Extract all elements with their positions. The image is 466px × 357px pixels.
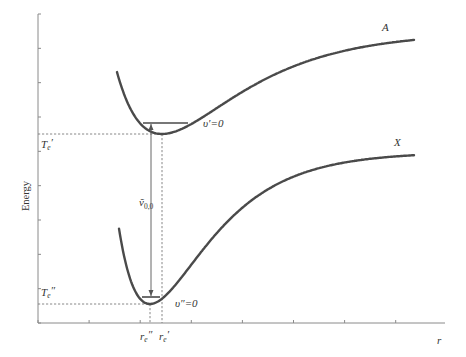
te-prime-label: Te′ xyxy=(41,136,53,152)
x-axis-label: r xyxy=(437,334,442,346)
curve-label-A: A xyxy=(381,21,389,33)
transition-subscript: 0,0 xyxy=(144,202,154,211)
re-prime-label: re′ xyxy=(159,328,170,344)
potential-energy-diagram: Energy r A X υ′=0 υ″=0 ṽ0,0 Te′ Te″ re″ … xyxy=(0,0,466,357)
te-double-prime-label: Te″ xyxy=(41,284,55,300)
curve-label-X: X xyxy=(393,136,402,148)
level-label-v-double-prime: υ″=0 xyxy=(175,297,198,309)
y-axis-label: Energy xyxy=(20,180,31,211)
re-double-prime-label: re″ xyxy=(140,328,153,344)
transition-arrowhead-down xyxy=(149,290,154,296)
potential-curve-A xyxy=(117,40,414,134)
transition-arrowhead-up xyxy=(149,124,154,130)
potential-curve-X xyxy=(119,155,414,304)
level-label-v-prime: υ′=0 xyxy=(203,117,224,129)
